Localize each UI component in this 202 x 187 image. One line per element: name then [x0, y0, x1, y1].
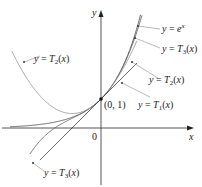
x-axis-label: x — [188, 131, 194, 142]
label-T3-bottom: y = T3(x) — [43, 167, 79, 180]
leader-arrowheads — [23, 25, 139, 164]
point-0-1 — [99, 97, 103, 101]
taylor-polynomial-diagram: x y 0 (0, 1) y = ex y = T3(x) y = T2(x) — [0, 0, 202, 187]
y-axis-label: y — [91, 7, 97, 18]
x-axis-arrow-icon — [187, 126, 194, 131]
curves — [10, 15, 142, 160]
label-T2-left: y = T2(x) — [33, 53, 69, 66]
origin-label: 0 — [92, 131, 97, 142]
label-T3-right: y = T3(x) — [161, 43, 197, 56]
label-T1: y = T1(x) — [137, 99, 173, 112]
point-label: (0, 1) — [104, 99, 126, 111]
label-exp: y = ex — [161, 22, 186, 34]
curve-T1 — [40, 63, 137, 160]
y-axis-arrow-icon — [99, 10, 104, 17]
label-T2-right: y = T2(x) — [148, 74, 184, 87]
